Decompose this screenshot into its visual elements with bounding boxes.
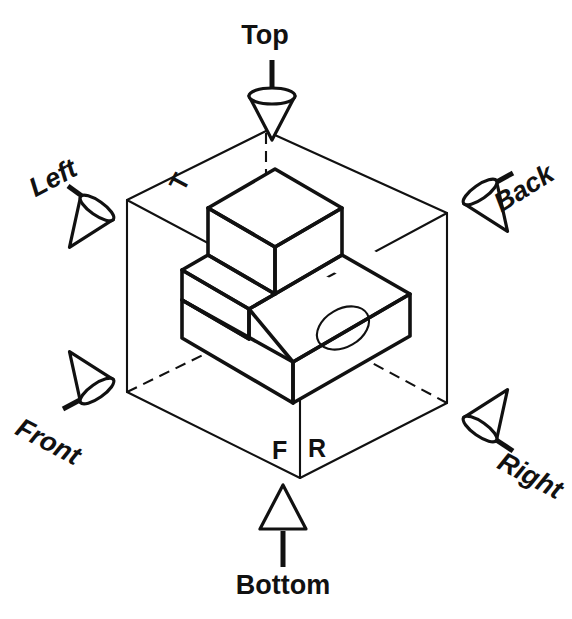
arrow-front [53,340,117,409]
figure-canvas: .solid { fill: none; stroke: #111111; st… [0,0,572,619]
arrow-bottom [260,485,306,567]
face-label-front-plane: F [272,438,287,463]
glass-box-hidden-bottom-right-edge [372,363,447,403]
arrow-left [53,186,117,259]
glass-box-hidden-bottom-left-edge [127,354,205,392]
arrow-label-bottom: Bottom [236,572,330,599]
arrow-top [249,60,295,140]
face-label-right-plane: R [308,436,326,461]
isometric-object [182,169,410,403]
arrow-label-top: Top [241,22,288,49]
glass-box-diagram: .solid { fill: none; stroke: #111111; st… [0,0,572,619]
glass-box-bottom-front-edges [127,392,447,478]
arrow-right [460,378,524,451]
